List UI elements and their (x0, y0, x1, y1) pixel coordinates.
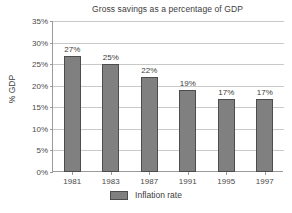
bar-value-label: 17% (257, 88, 273, 97)
x-tick-mark (72, 172, 73, 175)
bar-group: 22% (141, 21, 158, 172)
y-tick-label: 10% (32, 124, 48, 133)
y-tick-label: 30% (32, 38, 48, 47)
chart-title: Gross savings as a percentage of GDP (52, 4, 283, 14)
x-tick-mark (226, 172, 227, 175)
bar (141, 77, 158, 172)
x-tick-label: 1995 (217, 177, 235, 186)
y-tick-label: 15% (32, 103, 48, 112)
bar-value-label: 17% (218, 88, 234, 97)
bar (218, 99, 235, 172)
y-tick-label: 0% (36, 168, 48, 177)
legend-label-inflation-rate: Inflation rate (135, 190, 182, 200)
chart-legend: Inflation rate (0, 190, 292, 200)
x-tick-label: 1997 (256, 177, 274, 186)
x-tick-label: 1987 (140, 177, 158, 186)
x-tick-mark (265, 172, 266, 175)
x-tick-label: 1981 (63, 177, 81, 186)
y-tick-label: 35% (32, 17, 48, 26)
bar-group: 17% (218, 21, 235, 172)
bar-group: 19% (179, 21, 196, 172)
bar-value-label: 22% (141, 66, 157, 75)
bar (102, 64, 119, 172)
bar-group: 17% (256, 21, 273, 172)
x-tick-mark (188, 172, 189, 175)
bar-group: 27% (64, 21, 81, 172)
x-tick-mark (149, 172, 150, 175)
plot-area: 0%5%10%15%20%25%30%35% 27%25%22%19%17%17… (52, 21, 283, 172)
y-tick-label: 25% (32, 60, 48, 69)
x-tick-label: 1991 (179, 177, 197, 186)
x-tick-mark (111, 172, 112, 175)
bar (256, 99, 273, 172)
y-tick-label: 20% (32, 81, 48, 90)
y-tick-label: 5% (36, 146, 48, 155)
bar-value-label: 27% (64, 45, 80, 54)
legend-swatch-inflation-rate (110, 191, 128, 200)
x-tick-label: 1983 (102, 177, 120, 186)
y-tick-mark (50, 172, 53, 173)
y-axis-title: % GDP (7, 64, 17, 114)
bars-layer: 27%25%22%19%17%17% (53, 21, 284, 172)
bar (179, 90, 196, 172)
bar-group: 25% (102, 21, 119, 172)
bar-value-label: 25% (103, 53, 119, 62)
bar-chart: Gross savings as a percentage of GDP % G… (0, 0, 292, 213)
bar (64, 56, 81, 172)
bar-value-label: 19% (180, 79, 196, 88)
